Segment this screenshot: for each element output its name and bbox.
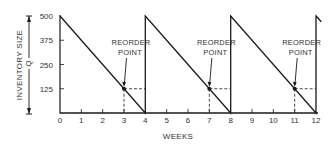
x-tick-label: 0 xyxy=(58,116,63,125)
reorder-arrow-shaft xyxy=(124,58,126,85)
reorder-dot xyxy=(293,87,297,91)
reorder-arrow-head-icon xyxy=(122,82,126,87)
reorder-arrow-shaft xyxy=(210,58,212,85)
reorder-arrow-head-icon xyxy=(208,82,212,87)
y-tick-label: 250 xyxy=(40,61,54,70)
x-axis-title: WEEKS xyxy=(163,132,193,141)
x-tick-label: 2 xyxy=(100,116,105,125)
x-axis-ticks: 0123456789101112 xyxy=(58,109,321,125)
y-axis-title: INVENTORY SIZE xyxy=(15,30,24,100)
y-tick-label: 125 xyxy=(40,85,54,94)
x-tick-label: 1 xyxy=(79,116,84,125)
reorder-label-line1: REORDER xyxy=(112,38,151,47)
reorder-arrow-head-icon xyxy=(293,82,297,87)
x-tick-label: 6 xyxy=(186,116,191,125)
inventory-line xyxy=(60,16,321,113)
inventory-sawtooth-chart: INVENTORY SIZE Q 125250375500 0123456789… xyxy=(0,0,335,149)
reorder-dot xyxy=(207,87,211,91)
reorder-label-line1: REORDER xyxy=(197,38,236,47)
x-tick-label: 3 xyxy=(122,116,127,125)
q-dimension-label: Q xyxy=(24,60,33,66)
x-tick-label: 10 xyxy=(269,116,278,125)
axes xyxy=(60,15,318,114)
reorder-label-line2: POINT xyxy=(203,48,227,57)
reorder-arrow-shaft xyxy=(295,58,297,85)
reorder-label-line2: POINT xyxy=(118,48,142,57)
reorder-label-line1: REORDER xyxy=(282,38,321,47)
reorder-label-line2: POINT xyxy=(289,48,313,57)
x-tick-label: 7 xyxy=(207,116,212,125)
x-tick-label: 9 xyxy=(250,116,255,125)
x-tick-label: 12 xyxy=(312,116,321,125)
inventory-series xyxy=(60,16,321,113)
x-tick-label: 5 xyxy=(164,116,169,125)
reorder-dot xyxy=(122,87,126,91)
reorder-annotations: REORDERPOINTREORDERPOINTREORDERPOINT xyxy=(112,38,322,113)
y-tick-label: 500 xyxy=(40,12,54,21)
x-tick-label: 8 xyxy=(228,116,233,125)
x-tick-label: 11 xyxy=(291,116,300,125)
x-tick-label: 4 xyxy=(143,116,148,125)
y-tick-label: 375 xyxy=(40,36,54,45)
